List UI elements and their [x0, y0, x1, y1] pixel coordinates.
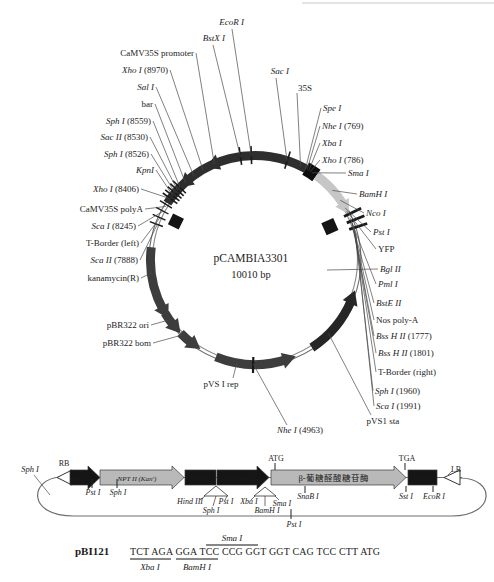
construct-label-tga: TGA — [399, 454, 416, 463]
leader-line — [297, 93, 301, 167]
site-bgl-ii: Bgl II — [327, 264, 402, 274]
site-35s-label: 35S — [298, 83, 312, 93]
site-bss-h-ii-1777--label: Bss H II (1777) — [376, 331, 432, 341]
linear-construct-map: NOS-proNPT II (Kanʳ)NOS-terCaMV 35S prom… — [21, 454, 486, 529]
site-kanamycin-r--label: kanamycin(R) — [88, 273, 139, 283]
construct-label-ecor-i: EcoR I — [422, 492, 445, 501]
site-t-border-left--label: T-Border (left) — [86, 238, 139, 248]
site-nhe-i-4963--label: Nhe I (4963) — [276, 425, 323, 435]
leader-line — [213, 45, 241, 157]
nos-polya-square — [321, 218, 338, 235]
plasmid-figure: EcoR IBstX ISac ICaMV35S promoterXho I (… — [0, 0, 494, 582]
site-pbr322-bom-label: pBR322 bom — [103, 338, 151, 348]
site-kpni-label: KpnI — [135, 165, 155, 175]
construct-label-sph-i: Sph I — [21, 464, 40, 474]
site-nhe-i-769--label: Nhe I (769) — [321, 121, 364, 131]
site-xho-i-8970--label: Xho I (8970) — [121, 65, 168, 75]
site-sac-ii-8530-: Sac II (8530) — [101, 132, 178, 190]
site-xho-i-786--label: Xho I (786) — [321, 155, 364, 165]
yfp-arc — [316, 176, 342, 204]
site-fan — [204, 486, 228, 496]
construct-label-sst-i: Sst I — [399, 492, 413, 501]
leader-line — [156, 170, 173, 196]
nptII-kan-arrow-label: NPT II (Kanʳ) — [117, 475, 157, 483]
site-sca-i-8245--label: Sca I (8245) — [92, 221, 137, 231]
site-camv35s-polya: CaMV35S polyA — [80, 204, 166, 214]
pvs1-sta-arc — [312, 301, 351, 348]
site-sph-i-8559--label: Sph I (8559) — [106, 116, 151, 126]
leader-line — [151, 154, 175, 193]
pvs1-rep-arc — [216, 357, 287, 365]
site-sal-i-label: Sal I — [137, 82, 155, 92]
leader-line — [156, 87, 194, 176]
site-sac-i: Sac I — [271, 66, 290, 161]
construct-label-xba-i: Xba I — [239, 497, 258, 506]
construct-label-sph-i: Sph I — [110, 488, 127, 497]
site-spe-i-label: Spe I — [323, 103, 342, 113]
site-xho-i-8406-: Xho I (8406) — [92, 184, 171, 199]
site-nos-poly-a-label: Nos poly-A — [376, 315, 419, 325]
kanamycin-arc — [151, 247, 164, 310]
figure-page: EcoR IBstX ISac ICaMV35S promoterXho I (… — [0, 0, 494, 582]
site-pml-i-label: Pml I — [377, 279, 399, 289]
construct-label-sma-i: Sma I — [273, 499, 292, 508]
site-sal-i: Sal I — [137, 82, 194, 176]
site-camv35s-promoter-label: CaMV35S promoter — [120, 48, 194, 58]
construct-label-sph-i: Sph I — [203, 506, 220, 515]
leader-line — [276, 78, 287, 161]
leader-line — [355, 232, 373, 391]
site-nhe-i-4963-: Nhe I (4963) — [253, 364, 323, 435]
site-sma-i-label: Sma I — [348, 168, 370, 178]
sequence-label-bamh-i: BamH I — [183, 562, 212, 572]
site-bss-h-ii-1801--label: Bss H II (1801) — [378, 348, 434, 358]
site-xba-i-label: Xba I — [321, 138, 343, 148]
site-bstx-i-label: BstX I — [203, 33, 226, 43]
sequence-block: pBI121 TCT AGA GGA TCC CCG GGT GGT CAG T… — [75, 533, 380, 572]
leader-line — [232, 29, 251, 156]
construct-label-pst-i: Pst I — [286, 520, 302, 529]
site-pvs1-sta-label: pVS1 sta — [367, 416, 400, 426]
site-kanamycin-r-: kanamycin(R) — [88, 273, 152, 283]
sequence-label-xba-i: Xba I — [139, 562, 161, 572]
site-bar-label: bar — [142, 99, 154, 109]
plasmid-title: pCAMBIA3301 — [214, 252, 289, 265]
construct-label-hind-iii: Hind III — [176, 497, 203, 506]
leader-line — [153, 121, 180, 188]
site-t-border-right--label: T-Border (right) — [378, 367, 436, 377]
site-sph-i-8526--label: Sph I (8526) — [104, 149, 149, 159]
site-xho-i-8406--label: Xho I (8406) — [92, 184, 139, 194]
camv-35s-promoter-arrow-label: CaMV 35S promoter — [217, 477, 259, 482]
construct-label-rb: RB — [59, 459, 70, 468]
leader-line — [196, 53, 214, 164]
site-sac-ii-8530--label: Sac II (8530) — [101, 132, 149, 142]
site-pbr322-ori-label: pBR322 ori — [107, 320, 150, 330]
construct-label-atg: ATG — [268, 454, 284, 463]
site-yfp-label: YFP — [378, 244, 395, 254]
construct-label-snab-i: SnaB I — [297, 492, 319, 501]
gus-gene-arrow-label: β-葡糖醛酸糖苷酶 — [298, 473, 368, 483]
camv-polya-square — [168, 213, 184, 229]
construct-label-lb: LB — [451, 465, 461, 474]
construct-label-pst-i: Pst I — [218, 497, 234, 506]
site-bste-ii-label: BstE II — [376, 298, 402, 308]
site-ecor-i-label: EcoR I — [218, 17, 245, 27]
site-pbr322-bom: pBR322 bom — [103, 335, 183, 348]
leader-line — [253, 364, 287, 425]
site-35s: 35S — [297, 83, 312, 167]
dna-sequence: TCT AGA GGA TCC CCG GGT GGT CAG TCC CTT … — [130, 546, 380, 557]
nos-terminator-box-1-label: NOS-ter — [190, 476, 210, 482]
site-sph-i-1960--label: Sph I (1960) — [375, 386, 420, 396]
site-sac-i-label: Sac I — [271, 66, 290, 76]
nos-terminator-box-2-label: NOS-ter — [412, 476, 432, 482]
site-bgl-ii-label: Bgl II — [380, 264, 402, 274]
leader-line — [329, 334, 372, 416]
site-pvs-i-rep-label: pVS I rep — [204, 379, 239, 389]
fan-stem — [213, 496, 216, 506]
site-pbr322-ori: pBR322 ori — [107, 320, 170, 330]
construct-label-pst-i: Pst I — [85, 488, 101, 497]
plasmid-size: 10010 bp — [231, 269, 270, 280]
site-camv35s-polya-label: CaMV35S polyA — [80, 204, 144, 214]
leader-line — [155, 104, 185, 183]
leader-line — [153, 335, 183, 343]
site-pst-i-label: Pst I — [372, 227, 391, 237]
